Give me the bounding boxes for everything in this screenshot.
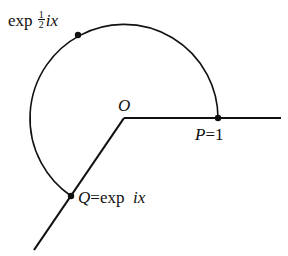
ray-through-q (34, 118, 124, 250)
frac-denominator: 2 (38, 20, 45, 29)
q-label: Q=exp ix (78, 189, 145, 206)
half-arg: ix (46, 11, 58, 30)
point-q (68, 193, 74, 199)
q-eq: = (90, 188, 100, 207)
q-name: Q (78, 188, 90, 207)
half-fn: exp (8, 11, 33, 30)
q-arg: ix (133, 188, 145, 207)
p-value: 1 (215, 125, 224, 144)
point-p (215, 115, 221, 121)
origin-label: O (118, 97, 130, 114)
unit-circle-diagram (0, 0, 288, 256)
half-fraction: 12 (38, 10, 45, 29)
half-label: exp 12ix (8, 12, 58, 32)
p-name: P (195, 125, 205, 144)
q-fn: exp (100, 188, 125, 207)
p-label: P=1 (195, 126, 223, 143)
p-eq: = (205, 125, 215, 144)
point-half (75, 32, 81, 38)
